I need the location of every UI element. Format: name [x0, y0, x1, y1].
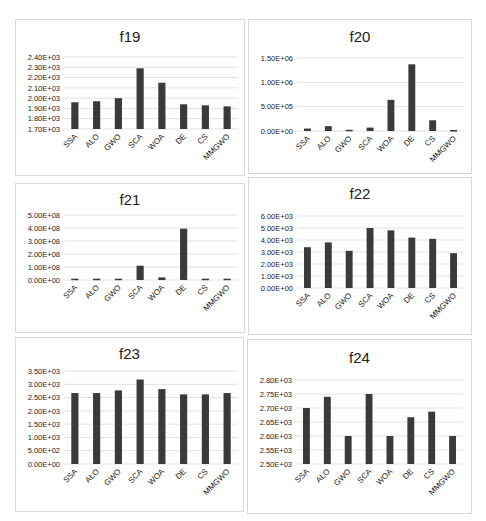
bar-mmgwo [224, 393, 231, 464]
x-tick-label: WOA [146, 467, 166, 487]
x-tick-label: CS [196, 467, 210, 481]
bar-woa [387, 230, 394, 288]
bar-woa [387, 100, 394, 131]
y-tick-label: 1.50E+03 [28, 420, 60, 429]
bar-sca [366, 394, 373, 464]
bar-gwo [346, 251, 353, 288]
bar-gwo [345, 436, 352, 464]
y-tick-label: 2.40E+03 [28, 53, 60, 62]
y-tick-label: 3.00E+08 [28, 237, 60, 246]
bar-mmgwo [449, 436, 456, 464]
bar-cs [202, 279, 209, 281]
x-tick-label: GWO [333, 291, 354, 312]
x-tick-label: GWO [102, 283, 123, 304]
chart-plot: 2.50E+032.55E+032.60E+032.65E+032.70E+03… [248, 340, 473, 515]
bar-woa [158, 277, 165, 280]
bar-mmgwo [224, 106, 231, 129]
bar-mmgwo [224, 279, 231, 281]
y-tick-label: 3.00E+03 [28, 380, 60, 389]
x-tick-label: SCA [127, 132, 145, 150]
x-tick-label: CS [422, 467, 436, 481]
bar-cs [202, 394, 209, 464]
y-tick-label: 1.00E+03 [28, 433, 60, 442]
bar-gwo [115, 98, 122, 129]
x-tick-label: ALO [314, 467, 332, 485]
chart-plot: 0.00E+001.00E+082.00E+083.00E+084.00E+08… [16, 184, 246, 334]
x-tick-label: DE [174, 132, 188, 146]
bar-ssa [303, 408, 310, 464]
y-tick-label: 5.00E+05 [261, 102, 293, 111]
y-tick-label: 1.70E+03 [28, 125, 60, 134]
x-tick-label: CS [423, 291, 437, 305]
x-tick-label: SCA [356, 291, 374, 309]
bar-sca [367, 128, 374, 131]
y-tick-label: 2.55E+03 [260, 446, 292, 455]
bar-cs [428, 412, 435, 464]
x-tick-label: SSA [294, 134, 312, 152]
bar-de [407, 417, 414, 464]
x-tick-label: SSA [62, 467, 80, 485]
x-tick-label: WOA [146, 283, 166, 303]
bar-de [408, 238, 415, 288]
chart-panel-f20: f20 0.00E+005.00E+051.00E+061.50E+06SSAA… [248, 19, 472, 174]
x-tick-label: GWO [102, 132, 123, 153]
y-tick-label: 0.00E+00 [28, 460, 60, 469]
y-tick-label: 0.00E+00 [261, 284, 293, 293]
bar-ssa [304, 129, 311, 131]
y-tick-label: 2.00E+03 [28, 94, 60, 103]
x-tick-label: SCA [355, 467, 373, 485]
x-tick-label: SCA [127, 283, 145, 301]
y-tick-label: 4.00E+03 [261, 236, 293, 245]
y-tick-label: 0.00E+00 [261, 127, 293, 136]
x-tick-label: WOA [375, 291, 395, 311]
x-tick-label: SSA [293, 467, 311, 485]
bar-alo [325, 126, 332, 131]
bar-cs [429, 239, 436, 288]
chart-plot: 0.00E+001.00E+032.00E+033.00E+034.00E+03… [249, 178, 473, 336]
y-tick-label: 1.50E+06 [261, 54, 293, 63]
bar-alo [324, 397, 331, 464]
bar-alo [325, 242, 332, 288]
y-tick-label: 2.30E+03 [28, 63, 60, 72]
x-tick-label: SSA [62, 132, 80, 150]
bar-ssa [304, 247, 311, 288]
y-tick-label: 2.75E+03 [260, 390, 292, 399]
y-tick-label: 2.00E+08 [28, 250, 60, 259]
y-tick-label: 1.00E+03 [261, 272, 293, 281]
bar-gwo [115, 279, 122, 281]
bar-de [180, 394, 187, 464]
chart-plot: 1.70E+031.80E+031.90E+032.00E+032.10E+03… [16, 20, 246, 177]
bar-de [408, 64, 415, 131]
bar-cs [429, 120, 436, 131]
y-tick-label: 2.10E+03 [28, 84, 60, 93]
bar-sca [367, 228, 374, 288]
y-tick-label: 2.60E+03 [260, 432, 292, 441]
x-tick-label: DE [174, 283, 188, 297]
chart-plot: 0.00E+005.00E+021.00E+031.50E+032.00E+03… [16, 338, 245, 513]
x-tick-label: ALO [83, 467, 101, 485]
y-tick-label: 3.50E+03 [28, 367, 60, 376]
x-tick-label: SCA [127, 467, 145, 485]
bar-woa [158, 83, 165, 129]
chart-panel-f24: f24 2.50E+032.55E+032.60E+032.65E+032.70… [247, 339, 472, 514]
bar-sca [137, 380, 144, 464]
y-tick-label: 0.00E+00 [28, 276, 60, 285]
bar-gwo [346, 130, 353, 132]
bar-alo [93, 101, 100, 129]
y-tick-label: 2.80E+03 [260, 376, 292, 385]
chart-plot: 0.00E+005.00E+051.00E+061.50E+06SSAALOGW… [249, 20, 473, 175]
y-tick-label: 2.20E+03 [28, 73, 60, 82]
y-tick-label: 1.00E+08 [28, 263, 60, 272]
x-tick-label: SCA [356, 134, 374, 152]
bar-alo [93, 393, 100, 464]
y-tick-label: 5.00E+08 [28, 211, 60, 220]
x-tick-label: WOA [375, 134, 395, 154]
x-tick-label: DE [402, 134, 416, 148]
bar-gwo [115, 390, 122, 464]
y-tick-label: 5.00E+02 [28, 446, 60, 455]
y-tick-label: 2.65E+03 [260, 418, 292, 427]
x-tick-label: ALO [83, 132, 101, 150]
chart-panel-f23: f23 0.00E+005.00E+021.00E+031.50E+032.00… [15, 337, 244, 512]
bar-ssa [71, 393, 78, 464]
x-tick-label: CS [196, 132, 210, 146]
